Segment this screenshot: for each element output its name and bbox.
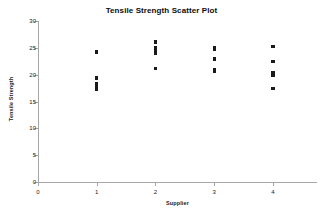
x-tick-label: 4: [263, 189, 283, 195]
scatter-chart: Tensile Strength Scatter Plot 0510152025…: [0, 0, 323, 215]
data-point: [95, 50, 98, 53]
data-point: [271, 74, 274, 77]
y-tick-label: 25: [10, 45, 36, 51]
x-tick-mark: [97, 182, 98, 186]
y-axis-line: [38, 21, 39, 183]
y-tick-label: 5: [10, 152, 36, 158]
x-tick-mark: [214, 182, 215, 186]
data-point: [213, 70, 216, 73]
y-axis-title: Tensile Strength: [8, 54, 14, 144]
x-tick-mark: [155, 182, 156, 186]
data-point: [154, 52, 157, 55]
plot-area: 051015202530 01234 Tensile Strength Supp…: [0, 0, 323, 215]
x-tick-label: 3: [204, 189, 224, 195]
data-point: [213, 57, 216, 60]
x-tick-mark: [273, 182, 274, 186]
x-axis-title: Supplier: [38, 200, 317, 206]
data-point: [271, 45, 274, 48]
data-point: [95, 76, 98, 79]
data-point: [271, 60, 274, 63]
data-point: [95, 87, 98, 90]
data-point: [154, 67, 157, 70]
x-tick-label: 2: [145, 189, 165, 195]
x-tick-label: 1: [87, 189, 107, 195]
x-tick-label: 0: [28, 189, 48, 195]
y-tick-label: 30: [10, 18, 36, 24]
x-axis-line: [38, 182, 317, 183]
y-tick-label: 0: [10, 179, 36, 185]
x-tick-mark: [38, 182, 39, 186]
data-point: [271, 87, 274, 90]
data-point: [154, 40, 157, 43]
data-point: [213, 48, 216, 51]
